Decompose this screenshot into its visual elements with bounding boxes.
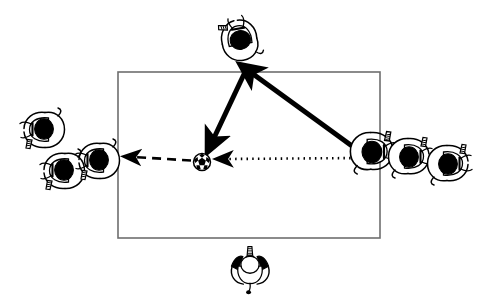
drill-diagram-root: Soccer passing and receiving drill playe…: [0, 0, 496, 305]
drill-diagram-canvas: [0, 0, 496, 305]
soccer-ball: [194, 154, 211, 171]
